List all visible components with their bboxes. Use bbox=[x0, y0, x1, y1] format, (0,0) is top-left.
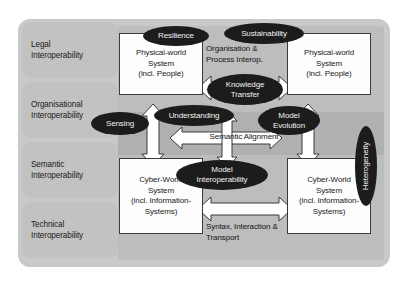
bubble-label-resilience: Resilience bbox=[158, 31, 194, 41]
layer-band-legal[interactable]: Legal Interoperability bbox=[22, 22, 118, 78]
arrow-syntax-transport bbox=[198, 196, 292, 222]
layer-band-semantic[interactable]: Semantic Interoperability bbox=[22, 142, 118, 198]
bubble-model-evolution[interactable]: Model Evolution bbox=[258, 106, 320, 135]
bubble-sustainability[interactable]: Sustainability bbox=[224, 23, 304, 44]
bubble-label-model-evolution: Model Evolution bbox=[273, 111, 305, 131]
bubble-heterogeneity[interactable]: Heterogeneity bbox=[355, 126, 377, 206]
bubble-label-sensing: Sensing bbox=[106, 119, 134, 129]
connector-label-organisation-process: Organisation & Process Interop. bbox=[206, 44, 290, 65]
layer-band-technical[interactable]: Technical Interoperability bbox=[22, 202, 118, 258]
connector-label-syntax-transport: Syntax, Interaction & Transport bbox=[206, 222, 302, 243]
layer-label-semantic: Semantic Interoperability bbox=[31, 159, 83, 181]
layer-label-organisational: Organisational Interoperability bbox=[31, 99, 83, 121]
system-label-cyber-right: Cyber-World System (incl. Information- S… bbox=[299, 175, 359, 217]
bubble-label-heterogeneity: Heterogeneity bbox=[361, 142, 371, 191]
system-box-physical-right[interactable]: Physical-world System (incl. People) bbox=[287, 33, 371, 95]
bubble-label-model-interoperability: Model Interoperability bbox=[197, 165, 248, 185]
layer-label-legal: Legal Interoperability bbox=[31, 39, 83, 61]
bubble-resilience[interactable]: Resilience bbox=[143, 26, 209, 46]
bubble-model-interoperability[interactable]: Model Interoperability bbox=[176, 160, 268, 190]
bubble-label-knowledge-transfer: Knowledge Transfer bbox=[226, 80, 265, 100]
system-label-physical-right: Physical-world System (incl. People) bbox=[304, 48, 354, 80]
bubble-label-sustainability: Sustainability bbox=[241, 29, 287, 39]
interoperability-diagram: Legal Interoperability Organisational In… bbox=[0, 0, 404, 284]
layer-label-technical: Technical Interoperability bbox=[31, 219, 83, 241]
bubble-sensing[interactable]: Sensing bbox=[91, 112, 149, 135]
bubble-understanding[interactable]: Understanding bbox=[154, 105, 234, 126]
system-label-physical-left: Physical-world System (incl. People) bbox=[136, 48, 186, 80]
bubble-label-understanding: Understanding bbox=[169, 111, 220, 121]
bubble-knowledge-transfer[interactable]: Knowledge Transfer bbox=[207, 74, 283, 105]
